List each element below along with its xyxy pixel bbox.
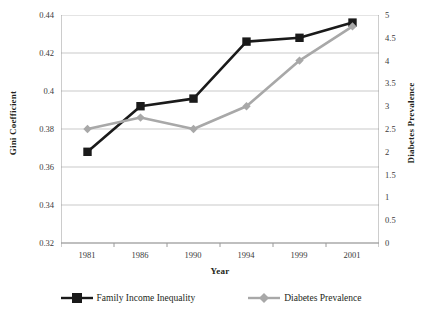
series-diabetes-prevalence xyxy=(83,22,356,133)
y-right-tick-7: 1.5 xyxy=(385,170,417,180)
series-family-income-inequality xyxy=(83,18,356,156)
series-line xyxy=(88,23,353,152)
legend-item-diabetes-prevalence[interactable]: Diabetes Prevalence xyxy=(247,292,361,304)
legend-item-family-income-inequality[interactable]: Family Income Inequality xyxy=(60,292,196,304)
y-left-tick-4: 0.36 xyxy=(22,162,54,172)
y-right-tick-1: 4.5 xyxy=(385,33,417,43)
x-tick-2001: 2001 xyxy=(324,250,380,260)
chart-container: Gini Coefficient Diabetes Prevalence Yea… xyxy=(0,0,421,319)
square-marker-icon xyxy=(60,292,94,304)
y-right-tick-5: 2.5 xyxy=(385,124,417,134)
x-tick-1986: 1986 xyxy=(112,250,168,260)
data-series-group xyxy=(83,18,356,156)
y-right-tick-3: 3.5 xyxy=(385,78,417,88)
data-point-marker[interactable] xyxy=(83,125,91,133)
series-line xyxy=(88,26,353,129)
y-left-tick-5: 0.34 xyxy=(22,200,54,210)
y-left-tick-2: 0.4 xyxy=(22,86,54,96)
plot-area xyxy=(61,15,379,243)
y-right-tick-2: 4 xyxy=(385,56,417,66)
x-tick-1994: 1994 xyxy=(218,250,274,260)
x-tick-1981: 1981 xyxy=(59,250,115,260)
y-left-tick-3: 0.38 xyxy=(22,124,54,134)
data-point-marker[interactable] xyxy=(83,148,91,156)
data-point-marker[interactable] xyxy=(189,94,197,102)
y-right-tick-8: 1 xyxy=(385,192,417,202)
y-left-tick-1: 0.42 xyxy=(22,48,54,58)
x-tickmarks-group xyxy=(61,243,379,247)
chart-legend: Family Income Inequality Diabetes Preval… xyxy=(0,292,421,304)
data-point-marker[interactable] xyxy=(136,102,144,110)
x-tick-1990: 1990 xyxy=(165,250,221,260)
y-right-tick-0: 5 xyxy=(385,10,417,20)
data-point-marker[interactable] xyxy=(136,113,144,121)
x-axis-title: Year xyxy=(60,266,380,276)
data-point-marker[interactable] xyxy=(242,37,250,45)
legend-label-diabetes-prevalence: Diabetes Prevalence xyxy=(284,293,361,303)
plot-svg xyxy=(61,15,379,247)
data-point-marker[interactable] xyxy=(295,34,303,42)
x-tick-1999: 1999 xyxy=(271,250,327,260)
data-point-marker[interactable] xyxy=(189,125,197,133)
y-right-tick-10: 0 xyxy=(385,238,417,248)
diamond-marker-icon xyxy=(247,292,281,304)
y-right-tick-6: 2 xyxy=(385,147,417,157)
y-axis-left-title: Gini Coefficient xyxy=(8,63,18,183)
y-left-tick-0: 0.44 xyxy=(22,10,54,20)
y-right-tick-4: 3 xyxy=(385,101,417,111)
legend-label-family-income-inequality: Family Income Inequality xyxy=(97,293,196,303)
y-right-tick-9: 0.5 xyxy=(385,215,417,225)
y-left-tick-6: 0.32 xyxy=(22,238,54,248)
gridlines-group xyxy=(61,15,379,243)
